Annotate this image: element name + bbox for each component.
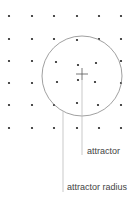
grid-point: [120, 15, 122, 17]
attractor-crosshair-icon: [76, 68, 88, 80]
grid-point: [31, 60, 33, 62]
grid-point: [55, 61, 57, 63]
grid-point: [120, 104, 122, 106]
grid-point: [31, 15, 33, 17]
grid-point: [76, 102, 78, 104]
grid-point: [120, 127, 122, 129]
attractor-radius-label: attractor radius: [67, 182, 127, 192]
grid-point: [8, 38, 10, 40]
grid-point: [8, 104, 10, 106]
grid-point: [120, 38, 122, 40]
grid-point: [97, 104, 99, 106]
grid-point: [77, 64, 79, 66]
grid-point: [77, 79, 79, 81]
grid-point: [53, 15, 55, 17]
grid-point: [76, 127, 78, 129]
grid-point: [98, 127, 100, 129]
attractor-diagram: attractor attractor radius: [0, 0, 132, 203]
grid-point: [31, 38, 33, 40]
grid-point: [8, 127, 10, 129]
attractor-label: attractor: [87, 146, 120, 156]
grid-point: [94, 81, 96, 83]
grid-point: [120, 60, 122, 62]
grid-point: [8, 15, 10, 17]
grid-point: [76, 39, 78, 41]
grid-point: [98, 15, 100, 17]
grid-point: [8, 82, 10, 84]
grid-point: [53, 38, 55, 40]
grid-point: [31, 127, 33, 129]
grid-point: [56, 81, 58, 83]
grid-point: [95, 62, 97, 64]
grid-point: [53, 127, 55, 129]
grid-point: [8, 60, 10, 62]
grid-point: [76, 15, 78, 17]
grid-point: [31, 104, 33, 106]
grid-point: [31, 82, 33, 84]
diagram-canvas: [0, 0, 132, 203]
